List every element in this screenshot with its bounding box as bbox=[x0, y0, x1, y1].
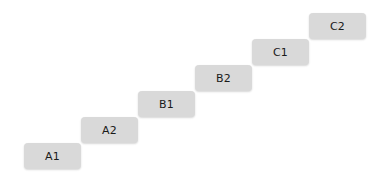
step-node-a2[interactable]: A2 bbox=[81, 117, 138, 143]
step-node-label: C2 bbox=[330, 21, 345, 32]
step-node-label: C1 bbox=[273, 47, 288, 58]
step-node-a1[interactable]: A1 bbox=[24, 143, 81, 169]
step-node-label: B2 bbox=[216, 73, 231, 84]
step-node-b2[interactable]: B2 bbox=[195, 65, 252, 91]
staircase-diagram: A1 A2 B1 B2 C1 C2 bbox=[0, 0, 385, 184]
step-node-c2[interactable]: C2 bbox=[309, 13, 366, 39]
step-node-label: A2 bbox=[102, 125, 117, 136]
step-node-b1[interactable]: B1 bbox=[138, 91, 195, 117]
step-node-c1[interactable]: C1 bbox=[252, 39, 309, 65]
step-node-label: A1 bbox=[45, 151, 60, 162]
step-node-label: B1 bbox=[159, 99, 174, 110]
